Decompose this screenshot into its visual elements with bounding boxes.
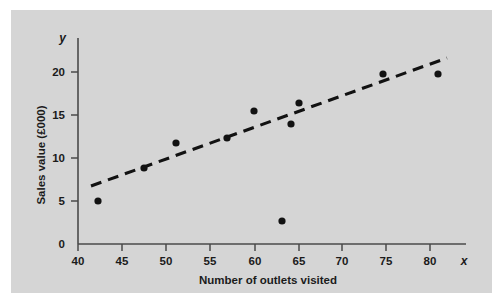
data-point: [140, 164, 147, 171]
data-point: [287, 120, 294, 127]
data-point: [94, 197, 101, 204]
y-tick-label-15: 15: [52, 109, 65, 121]
y-tick-label-10: 10: [52, 152, 65, 164]
data-point: [434, 70, 441, 77]
x-tick-label-65: 65: [293, 255, 306, 267]
x-axis-title: Number of outlets visited: [199, 274, 337, 286]
x-tick-label-80: 80: [424, 255, 437, 267]
data-point: [250, 107, 257, 114]
x-tick-label-75: 75: [380, 255, 393, 267]
x-tick-label-40: 40: [72, 255, 85, 267]
x-tick-label-55: 55: [204, 255, 217, 267]
data-point: [278, 217, 285, 224]
y-tick-label-0: 0: [59, 238, 65, 250]
data-point: [379, 70, 386, 77]
y-axis-title: Sales value (£000): [35, 105, 47, 204]
data-point: [172, 139, 179, 146]
scatter-chart: 20 15 10 5 0 40 45 50 55 60 65 70: [0, 0, 502, 303]
y-axis-symbol: y: [58, 31, 67, 45]
x-axis-symbol: x: [460, 254, 469, 268]
data-point: [223, 134, 230, 141]
data-points: [94, 70, 441, 224]
data-point: [295, 99, 302, 106]
chart-page: 20 15 10 5 0 40 45 50 55 60 65 70: [0, 0, 502, 303]
axes: [78, 38, 466, 244]
x-tick-label-50: 50: [160, 255, 173, 267]
y-tick-label-5: 5: [59, 195, 66, 207]
x-tick-label-70: 70: [336, 255, 349, 267]
x-tick-label-45: 45: [116, 255, 129, 267]
x-tick-marks: [78, 244, 430, 251]
y-tick-labels: 20 15 10 5 0: [52, 66, 65, 250]
y-tick-marks: [71, 72, 78, 201]
x-tick-labels: 40 45 50 55 60 65 70 75 80: [72, 255, 437, 267]
x-tick-label-60: 60: [249, 255, 262, 267]
y-tick-label-20: 20: [52, 66, 65, 78]
